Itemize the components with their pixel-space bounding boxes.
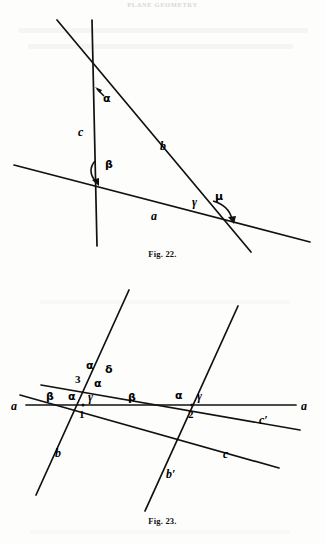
fig23-label-angle-3: 3	[75, 373, 81, 385]
figure-22: c b a α β γ μ	[0, 8, 325, 248]
fig23-node-1	[81, 403, 84, 406]
book-page: PLANE GEOMETRY	[0, 0, 325, 544]
figure-22-caption: Fig. 22.	[0, 249, 325, 259]
fig23-node-2	[190, 403, 193, 406]
fig22-line-a	[14, 165, 310, 242]
fig23-label-beta-mid: β	[128, 391, 136, 404]
fig23-label-alpha-p2: α	[175, 389, 183, 402]
running-head: PLANE GEOMETRY	[0, 1, 325, 8]
fig23-label-alpha-p1: α	[68, 390, 76, 403]
fig22-label-beta: β	[105, 158, 113, 171]
fig23-label-c-prime: c′	[259, 413, 268, 427]
fig23-label-point-1: 1	[79, 408, 85, 420]
fig22-line-c	[92, 20, 97, 246]
fig23-label-c: c	[223, 447, 229, 461]
fig23-label-gamma-p1: γ	[88, 390, 93, 404]
fig23-label-delta-upper: δ	[105, 363, 113, 376]
fig22-label-gamma: γ	[192, 195, 197, 209]
fig22-label-b: b	[160, 139, 166, 153]
fig22-label-c: c	[78, 125, 84, 139]
figure-23: a a b b′ c c′ 1 2 3 α δ α β α γ β α γ	[0, 288, 325, 513]
figure-23-caption: Fig. 23.	[0, 516, 325, 526]
fig22-label-alpha: α	[103, 92, 111, 105]
fig23-label-a-left: a	[11, 399, 17, 413]
fig23-label-b-prime: b′	[166, 467, 175, 481]
fig23-label-b: b	[55, 446, 61, 460]
fig23-label-alpha-upper: α	[86, 359, 94, 372]
fig23-label-point-2: 2	[188, 408, 194, 420]
fig23-label-beta-left: β	[46, 390, 54, 403]
fig22-label-a: a	[151, 209, 157, 223]
fig23-label-a-right: a	[301, 399, 307, 413]
fig23-label-alpha-mid: α	[94, 377, 102, 390]
fig23-label-gamma-p2: γ	[197, 389, 202, 403]
fig22-label-mu: μ	[215, 190, 223, 203]
